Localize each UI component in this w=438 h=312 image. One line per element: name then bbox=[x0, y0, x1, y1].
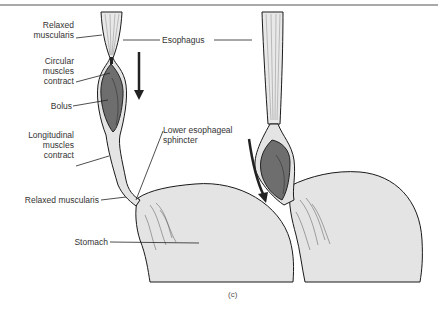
label-line: Bolus bbox=[51, 101, 72, 111]
label-line: Lower esophageal bbox=[163, 125, 232, 135]
label-line: Esophagus bbox=[162, 35, 205, 45]
label-line: Stomach bbox=[74, 237, 108, 247]
right-stomach bbox=[289, 172, 422, 282]
left-stomach bbox=[136, 184, 294, 282]
label-line: sphincter bbox=[163, 135, 232, 145]
downward-arrow-icon bbox=[134, 52, 144, 100]
label-line: contract bbox=[28, 150, 74, 160]
label-line: muscularis bbox=[33, 30, 74, 40]
label-esophagus: Esophagus bbox=[162, 35, 205, 45]
label-line: Circular bbox=[43, 56, 74, 66]
label-lower-esophageal-sphincter: Lower esophageal sphincter bbox=[163, 125, 232, 145]
label-bolus: Bolus bbox=[51, 101, 72, 111]
right-esophagus bbox=[255, 12, 295, 205]
left-esophagus bbox=[97, 12, 140, 206]
label-line: Relaxed muscularis bbox=[25, 195, 99, 205]
label-longitudinal-muscles-contract: Longitudinal muscles contract bbox=[28, 130, 74, 160]
label-relaxed-muscularis-top: Relaxed muscularis bbox=[33, 20, 74, 40]
label-relaxed-muscularis-bottom: Relaxed muscularis bbox=[25, 195, 99, 205]
label-stomach: Stomach bbox=[74, 237, 108, 247]
figure-caption: (c) bbox=[228, 290, 237, 299]
label-circular-muscles-contract: Circular muscles contract bbox=[43, 56, 74, 86]
label-line: Longitudinal bbox=[28, 130, 74, 140]
label-line: contract bbox=[43, 76, 74, 86]
label-line: muscles bbox=[43, 66, 74, 76]
label-line: Relaxed bbox=[33, 20, 74, 30]
label-line: muscles bbox=[28, 140, 74, 150]
